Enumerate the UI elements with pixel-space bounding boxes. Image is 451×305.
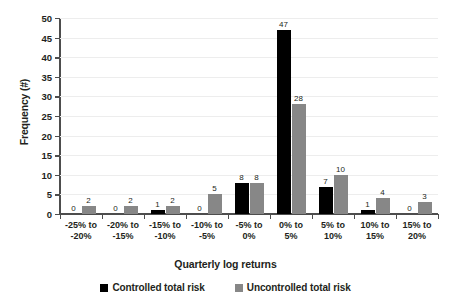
bar-value-label: 0 [197, 204, 201, 213]
bar-group: 14 [354, 18, 396, 214]
x-tick-label: -15% to-10% [144, 220, 186, 241]
bar[interactable] [277, 30, 291, 214]
x-tick-label: -5% to0% [228, 220, 270, 241]
bar-value-label: 2 [128, 196, 132, 205]
legend-swatch [235, 284, 243, 292]
bar-group: 02 [102, 18, 144, 214]
bar-wrap: 1 [361, 18, 375, 214]
y-tick-label: 10 [41, 169, 52, 180]
legend-item[interactable]: Controlled total risk [100, 282, 204, 293]
bar-wrap: 10 [334, 18, 348, 214]
bar-value-label: 8 [239, 173, 243, 182]
x-tick-label: 15% to20% [396, 220, 438, 241]
legend-item[interactable]: Uncontrolled total risk [235, 282, 351, 293]
bar-group: 03 [396, 18, 438, 214]
bar-value-label: 1 [365, 200, 369, 209]
bar-value-label: 2 [86, 196, 90, 205]
bar[interactable] [235, 183, 249, 214]
bar-value-label: 47 [279, 20, 288, 29]
x-tick-label: -20% to-15% [102, 220, 144, 241]
bar-value-label: 8 [254, 173, 258, 182]
y-tick-label: 5 [47, 189, 52, 200]
bar-value-label: 10 [336, 165, 345, 174]
y-tick-label: 25 [41, 111, 52, 122]
legend-swatch [100, 284, 108, 292]
bar-wrap: 5 [208, 18, 222, 214]
y-tick-label: 30 [41, 91, 52, 102]
x-tick-mark [144, 214, 145, 219]
x-tick-mark [186, 214, 187, 219]
plot-inner: 0510152025303540455002021205884728710140… [60, 18, 438, 214]
bar-group: 05 [186, 18, 228, 214]
x-tick-mark [312, 214, 313, 219]
bar-wrap: 4 [376, 18, 390, 214]
bar-value-label: 3 [422, 192, 426, 201]
bar-wrap: 1 [151, 18, 165, 214]
bar[interactable] [82, 206, 96, 214]
legend-label: Uncontrolled total risk [247, 282, 351, 293]
y-tick-label: 0 [47, 209, 52, 220]
bar-wrap: 28 [292, 18, 306, 214]
bar-value-label: 28 [294, 94, 303, 103]
bar-value-label: 5 [212, 184, 216, 193]
bar-value-label: 7 [323, 177, 327, 186]
bar-value-label: 2 [170, 196, 174, 205]
x-tick-label: 10% to15% [354, 220, 396, 241]
bar[interactable] [166, 206, 180, 214]
bar-value-label: 1 [155, 200, 159, 209]
y-tick-label: 45 [41, 32, 52, 43]
x-axis-title: Quarterly log returns [0, 258, 451, 270]
bar-wrap: 0 [67, 18, 81, 214]
x-tick-label: 5% to10% [312, 220, 354, 241]
bar-value-label: 0 [407, 204, 411, 213]
bar-wrap: 3 [418, 18, 432, 214]
bar-wrap: 2 [124, 18, 138, 214]
bar-group: 88 [228, 18, 270, 214]
bar-value-label: 0 [113, 204, 117, 213]
bar[interactable] [208, 194, 222, 214]
bar-wrap: 8 [235, 18, 249, 214]
bar-wrap: 0 [109, 18, 123, 214]
legend-label: Controlled total risk [112, 282, 204, 293]
x-tick-mark [228, 214, 229, 219]
y-axis-title: Frequency (#) [18, 42, 30, 182]
bar[interactable] [151, 210, 165, 214]
x-tick-mark [60, 214, 61, 219]
bar-chart: Frequency (#) 05101520253035404550020212… [0, 0, 451, 305]
bar-group: 4728 [270, 18, 312, 214]
bar[interactable] [319, 187, 333, 214]
bar-wrap: 2 [82, 18, 96, 214]
bar[interactable] [250, 183, 264, 214]
x-tick-mark [396, 214, 397, 219]
bar[interactable] [124, 206, 138, 214]
bar-wrap: 0 [403, 18, 417, 214]
x-tick-mark [438, 214, 439, 219]
bar[interactable] [418, 202, 432, 214]
bar[interactable] [361, 210, 375, 214]
y-tick-label: 20 [41, 130, 52, 141]
x-tick-mark [270, 214, 271, 219]
y-tick-label: 50 [41, 13, 52, 24]
bar-wrap: 0 [193, 18, 207, 214]
bar-value-label: 0 [71, 204, 75, 213]
bar-value-label: 4 [380, 188, 384, 197]
bar-wrap: 2 [166, 18, 180, 214]
bar-wrap: 7 [319, 18, 333, 214]
x-tick-label: 0% to5% [270, 220, 312, 241]
bar-group: 710 [312, 18, 354, 214]
x-tick-label: -10% to-5% [186, 220, 228, 241]
bar[interactable] [334, 175, 348, 214]
x-tick-label: -25% to-20% [60, 220, 102, 241]
bar[interactable] [292, 104, 306, 214]
bar-wrap: 8 [250, 18, 264, 214]
y-tick-label: 35 [41, 71, 52, 82]
plot-area: 0510152025303540455002021205884728710140… [60, 18, 438, 214]
bar-group: 12 [144, 18, 186, 214]
y-tick-label: 40 [41, 52, 52, 63]
bar-group: 02 [60, 18, 102, 214]
y-tick-label: 15 [41, 150, 52, 161]
bar-wrap: 47 [277, 18, 291, 214]
x-tick-mark [102, 214, 103, 219]
bar[interactable] [376, 198, 390, 214]
chart-legend: Controlled total riskUncontrolled total … [0, 282, 451, 293]
